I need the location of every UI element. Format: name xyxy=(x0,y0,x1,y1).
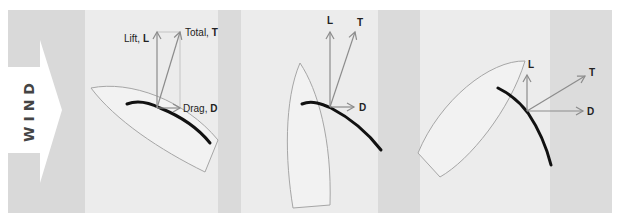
lift-label: L xyxy=(327,15,333,26)
force-vectors xyxy=(330,32,355,107)
total-label: T xyxy=(589,67,595,78)
diagram-canvas: WIND Lift, L Total, T Drag, D xyxy=(0,0,619,220)
total-label: Total, T xyxy=(185,27,218,38)
panel-2: L T D xyxy=(287,15,381,208)
panel-3: L T D xyxy=(418,59,595,177)
boat-hull-icon xyxy=(418,61,525,177)
drag-label: Drag, D xyxy=(183,103,217,114)
drag-label: D xyxy=(587,106,594,117)
lift-label: L xyxy=(528,59,534,70)
drag-label: D xyxy=(359,102,366,113)
total-vector xyxy=(330,32,355,107)
panel-1: Lift, L Total, T Drag, D xyxy=(91,27,218,172)
boat-hull-icon xyxy=(287,63,330,208)
boat-hull-icon xyxy=(91,86,218,172)
lift-label: Lift, L xyxy=(124,33,149,44)
wind-label: WIND xyxy=(21,78,37,142)
force-vectors xyxy=(157,32,180,108)
total-label: T xyxy=(357,17,363,28)
force-vectors xyxy=(527,75,585,111)
wind-arrow-icon: WIND xyxy=(8,40,62,183)
total-vector xyxy=(157,32,180,108)
total-vector xyxy=(527,76,585,111)
sail-force-diagram: WIND Lift, L Total, T Drag, D xyxy=(0,0,619,220)
